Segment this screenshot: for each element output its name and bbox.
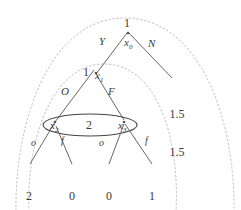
tree-graphics bbox=[0, 0, 241, 210]
branch-label-f-right: f bbox=[145, 136, 148, 146]
node-label-x3: x3 bbox=[118, 120, 126, 134]
root-node-value: 1 bbox=[124, 17, 130, 29]
payoff-right-1-top: 0 bbox=[102, 190, 116, 204]
payoff-left-1-top: 2 bbox=[22, 190, 36, 204]
payoff-no-top: 1.5 bbox=[166, 108, 188, 122]
payoff-no-bottom: 1.5 bbox=[166, 146, 188, 160]
payoff-right-1: 0 0 bbox=[102, 166, 116, 210]
branch-label-no: N bbox=[148, 38, 155, 49]
payoff-right-2: 1 2 bbox=[145, 166, 159, 210]
payoff-right-2-top: 1 bbox=[145, 190, 159, 204]
node-label-x1: x1 bbox=[95, 70, 103, 84]
node-dot-x0 bbox=[127, 32, 130, 35]
branch-label-open: O bbox=[61, 86, 69, 97]
x1-node-value: 1 bbox=[83, 66, 89, 78]
game-tree-diagram: 1 x0 Y N 1 x1 O F x2 2 x3 o f o f 2 1 0 … bbox=[0, 0, 241, 210]
payoff-no: 1.5 1.5 bbox=[166, 84, 188, 184]
branch-label-f-left: f bbox=[61, 136, 64, 146]
payoff-left-2-top: 0 bbox=[65, 190, 79, 204]
information-set-value: 2 bbox=[86, 119, 92, 131]
node-label-x1-sub: 1 bbox=[100, 76, 104, 84]
branch-label-o-right: o bbox=[99, 138, 104, 148]
branch-label-fight: F bbox=[108, 86, 115, 97]
node-label-x0-sub: 0 bbox=[129, 43, 133, 51]
payoff-left-2: 0 0 bbox=[65, 166, 79, 210]
branch-label-o-left: o bbox=[31, 138, 36, 148]
branch-label-yes: Y bbox=[99, 36, 105, 47]
node-label-x3-sub: 3 bbox=[123, 126, 127, 134]
node-label-x0: x0 bbox=[124, 37, 132, 51]
edge-x2-f bbox=[56, 126, 72, 164]
node-label-x2: x2 bbox=[50, 120, 58, 134]
node-label-x2-sub: 2 bbox=[55, 126, 59, 134]
payoff-left-1: 2 1 bbox=[22, 166, 36, 210]
